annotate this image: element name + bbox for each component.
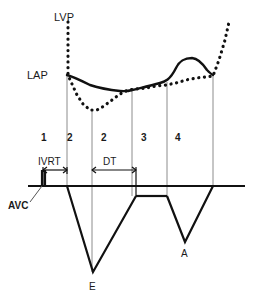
e-wave-envelope <box>67 186 136 272</box>
dt-measure <box>92 167 136 196</box>
phase-label-2b: 2 <box>101 132 107 143</box>
lap-curve <box>67 58 213 91</box>
lap-label: LAP <box>27 69 48 81</box>
e-wave-label: E <box>89 281 96 292</box>
phase-label-4: 4 <box>175 132 181 143</box>
avc-leader-line <box>30 186 42 202</box>
gridlines-group <box>67 75 213 272</box>
phase-label-3: 3 <box>141 132 147 143</box>
ivrt-measure <box>43 167 67 186</box>
phase-label-2a: 2 <box>67 132 73 143</box>
ivrt-label: IVRT <box>38 156 61 167</box>
avc-label: AVC <box>8 200 28 211</box>
phase-label-1: 1 <box>41 132 47 143</box>
dt-label: DT <box>103 156 116 167</box>
a-wave-envelope <box>167 186 213 242</box>
diastolic-filling-figure: LVP LAP 1 2 2 3 4 IVRT DT AVC E A <box>0 0 253 296</box>
figure-canvas: LVP LAP 1 2 2 3 4 IVRT DT AVC E A <box>0 0 253 296</box>
lvp-label: LVP <box>54 11 74 23</box>
a-wave-label: A <box>181 248 188 259</box>
